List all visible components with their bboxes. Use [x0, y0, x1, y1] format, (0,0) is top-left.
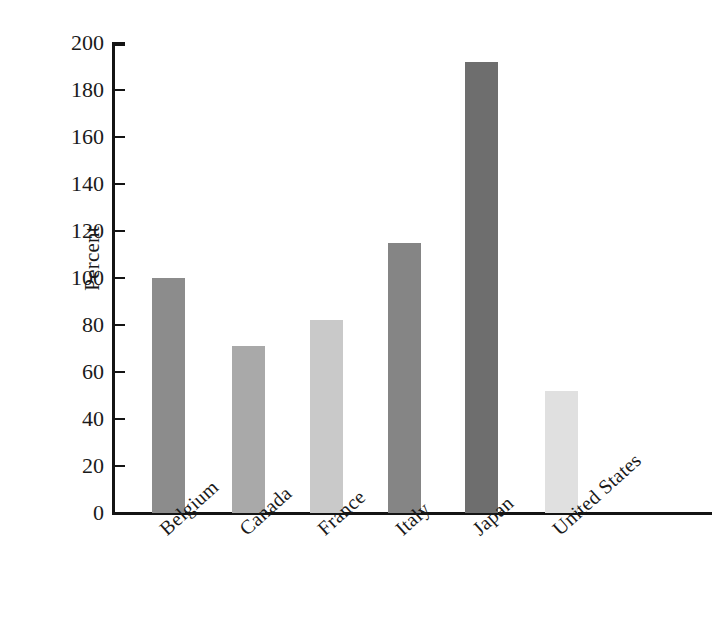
bar-united-states	[545, 391, 578, 513]
bar-italy	[388, 243, 421, 513]
bar-japan	[465, 62, 498, 513]
y-axis-tick-label: 120	[32, 220, 104, 242]
bar-chart: Percent 020406080100120140160180200 Belg…	[0, 0, 721, 637]
bar-belgium	[152, 278, 185, 513]
bar-france	[310, 320, 343, 513]
bar-canada	[232, 346, 265, 513]
y-axis-tick-label: 80	[32, 314, 104, 336]
y-axis-tick-label: 100	[32, 267, 104, 289]
y-axis-tick-label: 200	[32, 32, 104, 54]
y-axis-tick-label: 40	[32, 408, 104, 430]
y-axis-tick-label: 140	[32, 173, 104, 195]
y-axis-tick-label: 0	[32, 502, 104, 524]
y-axis-tick-label: 20	[32, 455, 104, 477]
y-axis-tick-label: 180	[32, 79, 104, 101]
y-axis-tick-label: 60	[32, 361, 104, 383]
y-axis-tick-label: 160	[32, 126, 104, 148]
plot-area	[115, 43, 712, 513]
y-axis-title: Percent	[80, 189, 105, 329]
